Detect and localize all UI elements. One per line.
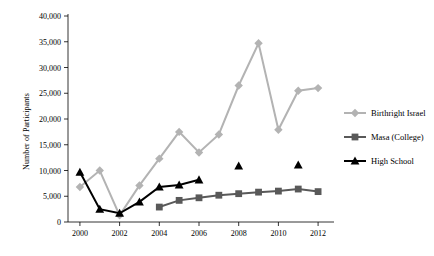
data-point-marker [234,81,242,89]
legend-item-2: Masa (College) [344,132,424,142]
x-tick-label: 2000 [72,229,88,238]
y-tick-label: 0 [57,218,61,227]
y-tick-label: 30,000 [39,64,61,73]
data-point-marker [235,190,242,197]
data-point-marker [176,197,183,204]
x-tick-label: 2004 [151,229,167,238]
data-point-marker [274,126,282,134]
legend-label: Birthright Israel [371,108,426,118]
series-line [80,43,318,215]
y-tick-label: 25,000 [39,89,61,98]
data-point-marker [294,86,302,94]
data-point-marker [315,188,322,195]
data-point-marker [352,134,359,141]
data-point-marker [195,175,204,183]
data-point-marker [95,205,104,213]
data-point-marker [295,186,302,193]
series-line [80,172,199,213]
data-point-marker [215,192,222,199]
x-tick-label: 2012 [310,229,326,238]
y-tick-label: 20,000 [39,115,61,124]
y-tick-label: 40,000 [39,12,61,21]
data-point-marker [294,160,303,168]
legend-label: High School [371,156,414,166]
data-point-marker [351,109,359,117]
data-point-marker [196,194,203,201]
data-point-marker [156,204,163,211]
legend-label: Masa (College) [371,132,424,142]
legend-item-3: High School [344,156,414,166]
data-point-marker [314,84,322,92]
data-point-marker [76,168,85,176]
chart-plot: 05,00010,00015,00020,00025,00030,00035,0… [0,0,434,256]
y-tick-label: 35,000 [39,38,61,47]
x-tick-label: 2002 [112,229,128,238]
x-tick-label: 2006 [191,229,207,238]
chart-container: Number of Participants 05,00010,00015,00… [0,0,434,256]
legend-item-1: Birthright Israel [344,108,426,118]
data-point-marker [275,188,282,195]
y-tick-label: 15,000 [39,141,61,150]
data-point-marker [234,161,243,169]
series-1 [76,39,323,219]
x-tick-label: 2008 [231,229,247,238]
y-tick-label: 10,000 [39,167,61,176]
data-point-marker [255,189,262,196]
data-point-marker [254,39,262,47]
series-2 [156,186,322,211]
series-3 [76,160,303,216]
x-tick-label: 2010 [270,229,286,238]
y-tick-label: 5,000 [43,192,61,201]
